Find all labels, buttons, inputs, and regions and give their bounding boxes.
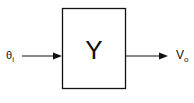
block-label: Y: [62, 35, 126, 66]
output-label: Vo: [176, 48, 188, 64]
input-label: θi: [6, 49, 14, 64]
output-arrowhead-icon: [159, 53, 168, 60]
input-arrowhead-icon: [53, 53, 62, 60]
